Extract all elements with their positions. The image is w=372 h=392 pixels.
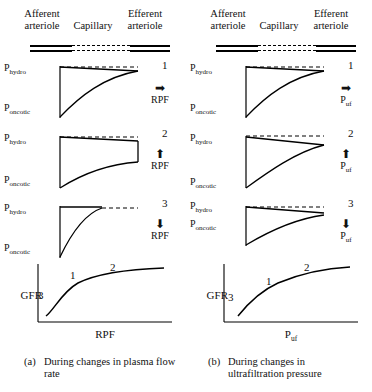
efferent-vessel-glyph <box>316 45 356 52</box>
p-hydro-label: Phydro <box>190 62 242 78</box>
gfr-point-2: 2 <box>110 262 116 273</box>
pressure-panel-a3: Phydro Poncotic 3 ⬇ RPF <box>0 196 186 266</box>
p-oncotic-label: Poncotic <box>4 174 56 190</box>
efferent-arteriole-label: Efferent arteriole <box>118 8 172 31</box>
pressure-panel-b1: Phydro Poncotic 1 ➡ Puf <box>186 56 372 126</box>
down-arrow-icon: ⬇ <box>138 218 182 230</box>
panel-number: 2 <box>348 128 354 139</box>
pressure-plot-a3 <box>58 202 140 260</box>
driver-b3: ⬇ Puf <box>324 218 368 246</box>
vessel-diagram-a: Afferent arteriole Capillary Efferent ar… <box>0 8 186 54</box>
panel-group-a: Afferent arteriole Capillary Efferent ar… <box>0 0 186 392</box>
afferent-line2: arteriole <box>25 20 60 31</box>
capillary-label: Capillary <box>68 20 118 32</box>
efferent-line1: Efferent <box>314 8 348 19</box>
driver-a2: ⬆ RPF <box>138 148 182 171</box>
p-hydro-label: Phydro <box>190 132 242 148</box>
caption-a-id: (a) <box>24 356 36 368</box>
driver-label: Puf <box>340 160 351 171</box>
afferent-arteriole-label: Afferent arteriole <box>16 8 68 31</box>
driver-label: RPF <box>151 94 169 105</box>
efferent-line1: Efferent <box>128 8 162 19</box>
driver-label: RPF <box>151 160 169 171</box>
afferent-arteriole-label: Afferent arteriole <box>202 8 254 31</box>
gfr-chart-a: GFR 3 1 2 RPF <box>0 262 186 348</box>
pressure-plot-a1 <box>58 62 140 120</box>
afferent-line1: Afferent <box>210 8 245 19</box>
gfr-point-1: 1 <box>266 276 272 287</box>
driver-label: RPF <box>151 230 169 241</box>
right-arrow-icon: ➡ <box>324 82 368 94</box>
pressure-plot-a2 <box>58 132 140 190</box>
p-oncotic-label: Poncotic <box>4 242 56 258</box>
pressure-panel-a2: Phydro Poncotic 2 ⬆ RPF <box>0 126 186 196</box>
efferent-line2: arteriole <box>314 20 349 31</box>
pressure-plot-b3 <box>244 202 326 260</box>
efferent-vessel-glyph <box>130 45 170 52</box>
capillary-label: Capillary <box>254 20 304 32</box>
p-hydro-label: Phydro <box>190 200 242 216</box>
panel-number: 3 <box>162 198 168 209</box>
gfr-point-3: 3 <box>38 290 44 301</box>
afferent-line2: arteriole <box>211 20 246 31</box>
pressure-panel-b3: Phydro Poncotic 3 ⬇ Puf <box>186 196 372 266</box>
gfr-point-2: 2 <box>304 262 310 273</box>
vessel-diagram-b: Afferent arteriole Capillary Efferent ar… <box>186 8 372 54</box>
up-arrow-icon: ⬆ <box>138 148 182 160</box>
panel-group-b: Afferent arteriole Capillary Efferent ar… <box>186 0 372 392</box>
up-arrow-icon: ⬆ <box>324 148 368 160</box>
gfr-point-1: 1 <box>70 270 76 281</box>
pressure-plot-b2 <box>244 132 326 190</box>
down-arrow-icon: ⬇ <box>324 218 368 230</box>
p-oncotic-label: Poncotic <box>190 176 242 192</box>
gfr-x-axis-label: Puf <box>226 328 356 345</box>
p-hydro-label: Phydro <box>4 62 56 78</box>
panel-number: 2 <box>162 128 168 139</box>
afferent-vessel-glyph <box>216 45 258 52</box>
capillary-vessel-glyph <box>72 45 130 52</box>
panel-number: 3 <box>348 198 354 209</box>
p-oncotic-label: Poncotic <box>190 218 242 234</box>
driver-b2: ⬆ Puf <box>324 148 368 176</box>
pressure-plot-b1 <box>244 62 326 120</box>
right-arrow-icon: ➡ <box>138 82 182 94</box>
p-oncotic-label: Poncotic <box>190 102 242 118</box>
driver-a1: ➡ RPF <box>138 82 182 105</box>
gfr-x-axis-label: RPF <box>40 328 170 340</box>
pressure-panel-a1: Phydro Poncotic 1 ➡ RPF <box>0 56 186 126</box>
driver-label: Puf <box>340 94 351 105</box>
p-hydro-label: Phydro <box>4 202 56 218</box>
efferent-arteriole-label: Efferent arteriole <box>304 8 358 31</box>
efferent-line2: arteriole <box>128 20 163 31</box>
kidney-filtration-figure: Afferent arteriole Capillary Efferent ar… <box>0 0 372 392</box>
capillary-vessel-glyph <box>258 45 316 52</box>
gfr-chart-b: GFR 3 1 2 Puf <box>186 262 372 348</box>
panel-number: 1 <box>348 60 354 71</box>
caption-b-text: During changes in ultrafiltration pressu… <box>228 356 358 379</box>
p-oncotic-label: Poncotic <box>4 102 56 118</box>
driver-a3: ⬇ RPF <box>138 218 182 241</box>
gfr-point-3: 3 <box>228 292 234 303</box>
caption-a-text: During changes in plasma flow rate <box>44 356 182 379</box>
p-hydro-label: Phydro <box>4 132 56 148</box>
driver-label: Puf <box>340 230 351 241</box>
pressure-panel-b2: Phydro Poncotic 2 ⬆ Puf <box>186 126 372 196</box>
driver-b1: ➡ Puf <box>324 82 368 110</box>
caption-b-id: (b) <box>208 356 220 368</box>
panel-number: 1 <box>162 60 168 71</box>
afferent-line1: Afferent <box>24 8 59 19</box>
afferent-vessel-glyph <box>30 45 72 52</box>
